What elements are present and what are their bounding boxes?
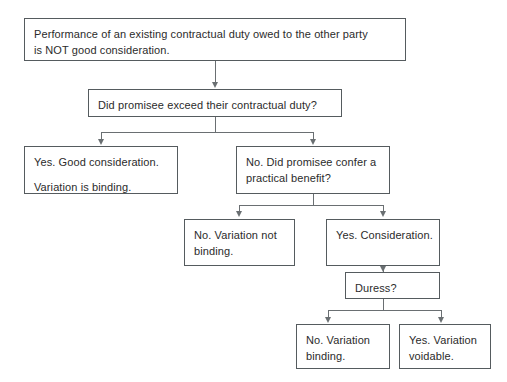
edge-benefit-bus bbox=[239, 205, 383, 206]
edge-question-to-no-arrow bbox=[310, 139, 316, 145]
node-no-variation-binding-line1: No. Variation bbox=[306, 332, 380, 348]
edge-duress-bus bbox=[328, 310, 441, 311]
node-question-exceed: Did promisee exceed their contractual du… bbox=[88, 89, 342, 117]
edge-premise-to-question-arrow bbox=[212, 82, 218, 88]
node-premise-line1: Performance of an existing contractual d… bbox=[34, 26, 396, 42]
node-duress-line1: Duress? bbox=[355, 280, 430, 296]
edge-question-stem bbox=[215, 117, 216, 132]
edge-benefit-to-no-arrow bbox=[236, 211, 242, 217]
edge-duress-to-yes-arrow bbox=[438, 317, 444, 323]
node-no-variation-not-binding: No. Variation not binding. bbox=[184, 219, 295, 266]
node-yes-consideration-line1: Yes. Consideration. bbox=[336, 227, 430, 243]
node-no-variation-binding-line2: binding. bbox=[306, 348, 380, 364]
node-question-exceed-line1: Did promisee exceed their contractual du… bbox=[98, 97, 332, 113]
node-no-practical-benefit: No. Did promisee confer a practical bene… bbox=[236, 146, 390, 194]
node-yes-good-consideration: Yes. Good consideration. Variation is bi… bbox=[24, 146, 178, 194]
edge-premise-to-question-line bbox=[215, 61, 216, 83]
node-premise: Performance of an existing contractual d… bbox=[24, 18, 406, 61]
node-duress: Duress? bbox=[345, 272, 440, 299]
node-yes-variation-voidable: Yes. Variation voidable. bbox=[399, 324, 491, 369]
node-yes-consideration: Yes. Consideration. bbox=[326, 219, 440, 266]
node-no-variation-binding: No. Variation binding. bbox=[296, 324, 390, 369]
node-no-variation-not-binding-line2: binding. bbox=[194, 243, 285, 259]
edge-duress-to-no-arrow bbox=[325, 317, 331, 323]
node-no-practical-benefit-line1: No. Did promisee confer a bbox=[246, 154, 380, 170]
node-yes-variation-voidable-line1: Yes. Variation bbox=[409, 332, 481, 348]
node-yes-good-consideration-line2: Variation is binding. bbox=[34, 179, 168, 195]
node-premise-line2: is NOT good consideration. bbox=[34, 42, 396, 58]
node-yes-good-consideration-line1: Yes. Good consideration. bbox=[34, 154, 168, 170]
edge-duress-stem bbox=[383, 299, 384, 310]
node-no-variation-not-binding-line1: No. Variation not bbox=[194, 227, 285, 243]
edge-benefit-stem bbox=[313, 194, 314, 205]
edge-benefit-to-yes-arrow bbox=[380, 211, 386, 217]
edge-question-bus bbox=[101, 132, 313, 133]
edge-question-to-yes-arrow bbox=[98, 139, 104, 145]
node-yes-variation-voidable-line2: voidable. bbox=[409, 348, 481, 364]
node-no-practical-benefit-line2: practical benefit? bbox=[246, 170, 380, 186]
flowchart-canvas: Performance of an existing contractual d… bbox=[0, 0, 507, 382]
